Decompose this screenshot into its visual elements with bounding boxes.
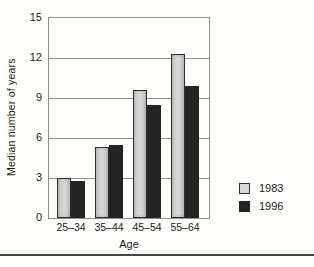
bar-1996 (147, 105, 161, 218)
y-tick-label: 0 (0, 210, 42, 224)
y-tick-label: 15 (0, 10, 42, 24)
bar-1996 (109, 145, 123, 218)
x-tick-label: 55–64 (161, 221, 209, 233)
y-tick-label: 12 (0, 50, 42, 64)
bar-1996 (71, 181, 85, 218)
plot-area (48, 17, 210, 219)
legend-label: 1996 (259, 200, 283, 212)
legend-item-1996: 1996 (239, 200, 283, 212)
x-axis-title: Age (104, 238, 154, 250)
y-tick-label: 9 (0, 90, 42, 104)
y-tick-label: 3 (0, 170, 42, 184)
bar-1983 (57, 178, 71, 218)
bar-1996 (185, 86, 199, 218)
legend-swatch-icon (239, 201, 250, 212)
legend-swatch-icon (239, 183, 250, 194)
bar-chart-figure: Median number of years 03691215 25–3435–… (0, 0, 314, 267)
legend-label: 1983 (259, 182, 283, 194)
y-axis-title: Median number of years (2, 17, 19, 217)
legend: 19831996 (239, 182, 283, 212)
gridline (49, 58, 209, 59)
page-divider-rule (0, 254, 314, 256)
y-tick-label: 6 (0, 130, 42, 144)
bar-1983 (171, 54, 185, 218)
legend-item-1983: 1983 (239, 182, 283, 194)
bar-1983 (133, 90, 147, 218)
bar-1983 (95, 147, 109, 218)
